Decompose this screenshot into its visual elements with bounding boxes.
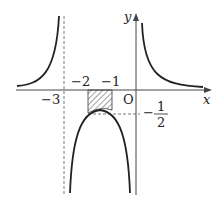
y-axis-label: y [123, 9, 132, 24]
y-value-denominator: 2 [157, 115, 165, 130]
y-value-numerator: 1 [157, 99, 165, 114]
tick-label-neg1: −1 [101, 74, 120, 89]
origin-label: O [123, 92, 134, 107]
tick-label-neg2: −2 [71, 74, 90, 89]
y-axis-arrow-icon [133, 13, 139, 21]
tick-label-neg3: −3 [41, 92, 60, 107]
curve-left-branch [17, 16, 59, 86]
y-value-sign: − [143, 105, 154, 120]
curve-middle-branch [70, 110, 130, 193]
function-graph: x y O −3 −2 −1 − 1 2 [0, 0, 223, 200]
x-axis-label: x [203, 92, 211, 107]
curve-right-branch [142, 23, 203, 87]
